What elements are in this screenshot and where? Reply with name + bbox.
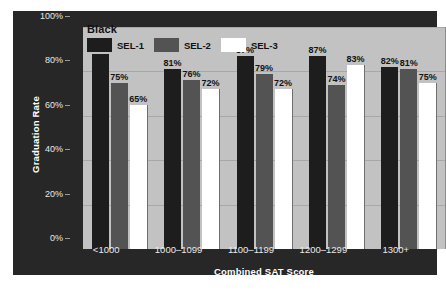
y-tick-mark <box>65 105 70 106</box>
x-tick-label-2: 1000–1099 <box>139 244 219 255</box>
legend-item-sel-1[interactable]: SEL-1 <box>87 38 144 52</box>
bar-value-label: 72% <box>198 78 223 88</box>
y-tick-label: 100% <box>23 11 63 21</box>
legend-item-sel-2[interactable]: SEL-2 <box>154 38 211 52</box>
legend-label: SEL-3 <box>251 40 278 51</box>
y-tick-label: 40% <box>23 144 63 154</box>
bar-sel-1-4[interactable] <box>309 56 326 249</box>
bar-value-label: 75% <box>415 72 440 82</box>
y-tick-label: 60% <box>23 100 63 110</box>
bar-value-label: 75% <box>107 72 132 82</box>
bar-sel-2-5[interactable] <box>400 69 417 249</box>
y-tick-label: 80% <box>23 55 63 65</box>
bar-sel-1-5[interactable] <box>381 67 398 249</box>
y-tick-mark <box>65 60 70 61</box>
x-tick-label-1: <1000 <box>66 244 146 255</box>
y-tick-label: 0% <box>23 233 63 243</box>
y-tick-label: 20% <box>23 189 63 199</box>
bar-sel-3-3[interactable] <box>275 89 293 249</box>
legend-title: Black <box>87 23 117 35</box>
bar-sel-1-3[interactable] <box>237 56 254 249</box>
bar-value-label: 81% <box>160 58 185 68</box>
legend-label: SEL-1 <box>117 40 144 51</box>
legend-item-list: SEL-1SEL-2SEL-3 <box>87 38 288 52</box>
chart-screenshot: Graduation Rate 0%20%40%60%80%100% 88%75… <box>0 0 446 291</box>
plot-area: 88%75%65%81%76%72%87%79%72%87%74%83%82%8… <box>83 27 446 249</box>
bar-value-label: 65% <box>126 94 151 104</box>
bar-sel-3-1[interactable] <box>130 105 148 249</box>
bar-sel-3-4[interactable] <box>347 65 365 249</box>
legend-swatch-icon-sel-2 <box>154 38 179 52</box>
y-tick-mark <box>65 149 70 150</box>
y-axis-title: Graduation Rate <box>30 80 41 190</box>
bar-value-label: 83% <box>343 54 368 64</box>
bar-sel-1-1[interactable] <box>92 54 109 249</box>
bar-sel-2-1[interactable] <box>111 83 128 250</box>
bar-sel-1-2[interactable] <box>164 69 181 249</box>
legend-label: SEL-2 <box>184 40 211 51</box>
legend-swatch-icon-sel-1 <box>87 38 112 52</box>
bar-value-label: 74% <box>324 74 349 84</box>
bar-value-label: 79% <box>252 63 277 73</box>
bar-sel-3-5[interactable] <box>419 83 437 250</box>
bar-sel-2-3[interactable] <box>256 74 273 249</box>
chart-legend: Black SEL-1SEL-2SEL-3 <box>85 23 385 55</box>
y-tick-mark <box>65 238 70 239</box>
x-axis-title: Combined SAT Score <box>83 266 445 277</box>
y-tick-mark <box>65 194 70 195</box>
bar-sel-2-4[interactable] <box>328 85 345 249</box>
legend-swatch-icon-sel-3 <box>221 38 246 52</box>
x-tick-label-3: 1100–1199 <box>211 244 291 255</box>
bar-value-label: 72% <box>271 78 296 88</box>
bar-value-label: 81% <box>396 58 421 68</box>
x-tick-label-5: 1300+ <box>356 244 436 255</box>
x-tick-label-4: 1200–1299 <box>283 244 363 255</box>
y-tick-mark <box>65 16 70 17</box>
bar-sel-3-2[interactable] <box>202 89 220 249</box>
chart-panel: Graduation Rate 0%20%40%60%80%100% 88%75… <box>13 11 437 275</box>
bar-sel-2-2[interactable] <box>183 80 200 249</box>
legend-item-sel-3[interactable]: SEL-3 <box>221 38 278 52</box>
